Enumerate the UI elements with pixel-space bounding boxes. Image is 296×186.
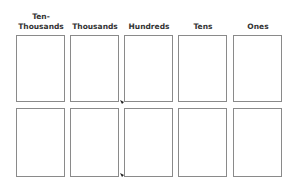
- box-row2-ten-thousands[interactable]: [16, 108, 65, 177]
- box-row2-hundreds[interactable]: [124, 108, 173, 177]
- box-row2-tens[interactable]: [178, 108, 227, 177]
- column-headers: Ten- Thousands Thousands Hundreds Tens O…: [0, 0, 296, 34]
- header-thousands: Thousands: [65, 22, 125, 32]
- box-row2-ones[interactable]: [233, 108, 282, 177]
- header-ones: Ones: [228, 22, 288, 32]
- box-row1-hundreds[interactable]: [124, 35, 173, 102]
- box-row1-ten-thousands[interactable]: [16, 35, 65, 102]
- box-row2-thousands[interactable]: [70, 108, 119, 177]
- corner-marker-icon: [120, 173, 124, 177]
- header-hundreds: Hundreds: [119, 22, 179, 32]
- box-row1-tens[interactable]: [178, 35, 227, 102]
- box-row1-thousands[interactable]: [70, 35, 119, 102]
- corner-marker-icon: [120, 100, 124, 104]
- header-tens: Tens: [173, 22, 233, 32]
- header-ten-thousands: Ten- Thousands: [11, 12, 71, 32]
- box-row1-ones[interactable]: [233, 35, 282, 102]
